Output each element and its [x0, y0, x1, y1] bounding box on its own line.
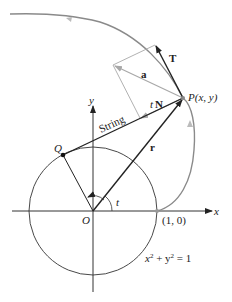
point-1-0 [155, 209, 159, 213]
eq-plus-y: + y [153, 252, 171, 264]
label-P: P(x, y) [187, 91, 218, 104]
parallelogram-edge [113, 65, 140, 118]
involute-diagram: T a t N P(x, y) String y x Q r O t (1, 0… [0, 0, 232, 302]
point-P [181, 96, 185, 100]
label-a: a [141, 68, 147, 80]
angle-arc-t [105, 196, 112, 211]
acceleration-vector [115, 66, 183, 98]
curve-direction-arrow [66, 17, 72, 22]
involute-curve [10, 14, 195, 211]
curve-direction-arrow [187, 120, 193, 127]
label-x-axis: x [213, 205, 219, 217]
label-tN-N: N [155, 98, 163, 110]
label-point-1-0: (1, 0) [162, 214, 186, 227]
label-T: T [169, 52, 177, 64]
radius-OQ [63, 155, 93, 211]
parallelogram-edge [113, 45, 155, 65]
label-tN-t: t [150, 98, 154, 110]
eq-equals: = 1 [174, 252, 191, 264]
string-line [63, 98, 183, 155]
label-y-axis: y [88, 94, 94, 106]
label-t-angle: t [116, 196, 120, 208]
label-Q: Q [54, 142, 62, 154]
label-r: r [150, 141, 155, 153]
position-vector-r [93, 100, 182, 211]
label-O: O [82, 214, 90, 226]
circle-equation: x2 + y2 = 1 [144, 252, 191, 264]
